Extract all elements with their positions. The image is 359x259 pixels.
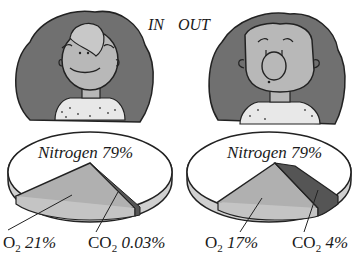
out-label: OUT bbox=[178, 16, 210, 34]
right-o2-label: O2 17% bbox=[205, 233, 258, 253]
left-o2-label: O2 21% bbox=[3, 233, 56, 253]
left-co2-label: CO2 0.03% bbox=[88, 233, 165, 253]
girl-inhaling-icon bbox=[16, 11, 153, 122]
right-co2-label: CO2 4% bbox=[292, 233, 348, 253]
right-nitrogen-label: Nitrogen 79% bbox=[227, 143, 322, 163]
girl-exhaling-icon bbox=[209, 13, 345, 124]
left-nitrogen-label: Nitrogen 79% bbox=[38, 143, 133, 163]
illustration bbox=[0, 0, 359, 259]
in-label: IN bbox=[148, 16, 164, 34]
